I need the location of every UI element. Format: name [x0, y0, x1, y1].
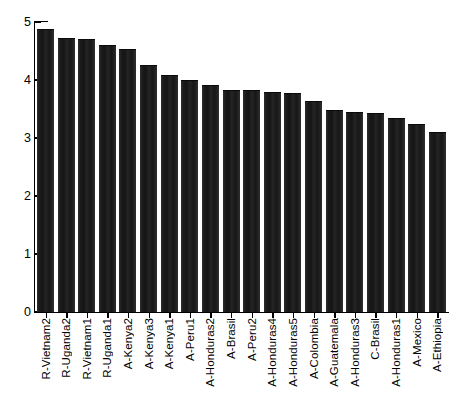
x-axis-tick-label: A-Honduras1: [390, 318, 402, 387]
x-axis-tick-label: R-Uganda2: [60, 318, 72, 378]
x-axis-tick-label: A-Honduras2: [204, 318, 216, 387]
x-axis-tick-label: A-Honduras3: [349, 318, 361, 387]
bar: [58, 38, 75, 312]
x-axis-tick-label: A-Kenya1: [163, 318, 175, 369]
x-axis-tick-label: A-Ethiopia: [431, 318, 443, 372]
bar: [37, 29, 54, 312]
x-axis-tick-label: A-Honduras4: [266, 318, 278, 387]
x-axis-tick-label: R-Uganda1: [101, 318, 113, 378]
x-axis-tick-label: A-Honduras5: [287, 318, 299, 387]
bar: [161, 75, 178, 312]
bar: [284, 93, 301, 312]
plot-area: [35, 22, 449, 312]
bar: [346, 112, 363, 312]
y-axis-tick-label: 4: [5, 74, 31, 87]
bar: [99, 45, 116, 312]
bar: [78, 39, 95, 312]
bar: [305, 101, 322, 312]
x-axis-tick-label: R-Vietnam1: [81, 318, 93, 380]
bar: [408, 124, 425, 312]
bar: [223, 90, 240, 312]
y-axis-tick-label: 1: [5, 248, 31, 261]
bar: [388, 118, 405, 312]
x-axis-tick-label: A-Kenya3: [143, 318, 155, 369]
x-axis-tick-label: C-Brasil: [369, 318, 381, 360]
x-axis-tick-label: A-Brasil: [225, 318, 237, 359]
x-axis-tick-label: A-Guatemala: [328, 318, 340, 387]
bar: [202, 85, 219, 312]
x-axis-tick-label: A-Peru2: [246, 318, 258, 361]
bar: [326, 110, 343, 312]
bar: [119, 49, 136, 312]
x-axis-line: [34, 312, 449, 313]
bar: [264, 92, 281, 312]
x-axis-tick-label: A-Kenya2: [122, 318, 134, 369]
x-axis-tick-label: A-Mexico: [411, 318, 423, 367]
y-axis-tick-labels: 012345: [0, 0, 31, 398]
bar: [429, 132, 446, 312]
y-axis-tick-label: 3: [5, 132, 31, 145]
y-axis-tick-label: 0: [5, 306, 31, 319]
x-axis-tick-labels: R-Vietnam2R-Uganda2R-Vietnam1R-Uganda1A-…: [35, 318, 449, 398]
y-axis-tick-label: 5: [5, 16, 31, 29]
x-axis-tick-label: A-Peru1: [184, 318, 196, 361]
bar: [140, 65, 157, 312]
bar-chart-figure: 012345 R-Vietnam2R-Uganda2R-Vietnam1R-Ug…: [0, 0, 467, 398]
bar: [181, 80, 198, 312]
x-axis-tick-label: A-Colombia: [308, 318, 320, 379]
x-axis-tick-label: R-Vietnam2: [40, 318, 52, 380]
bar: [243, 90, 260, 312]
bar: [367, 113, 384, 312]
y-axis-tick-label: 2: [5, 190, 31, 203]
